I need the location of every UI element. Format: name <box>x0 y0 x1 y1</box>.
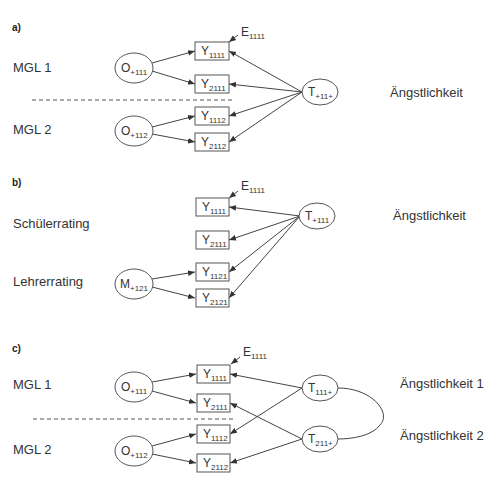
path-diagram: a) MGL 1 MGL 2 Ängstlichkeit E1111 Y1111… <box>0 0 491 482</box>
method-factor-ellipse: O+111 <box>115 372 153 402</box>
trait-label: Ängstlichkeit <box>393 208 466 223</box>
indicator-box: Y1111 <box>196 198 229 216</box>
indicator-box: Y2112 <box>197 454 230 472</box>
indicator-box: Y2112 <box>195 133 229 151</box>
indicator-box: Y2121 <box>196 289 229 307</box>
method-factor-ellipse: O+112 <box>115 436 153 466</box>
method-factor-ellipse: M+121 <box>115 269 153 299</box>
method-factor-ellipse: O+111 <box>115 53 153 83</box>
group-label-schuelerrating: Schülerrating <box>13 216 90 231</box>
error-label: E1111 <box>241 25 266 41</box>
trait-factor-ellipse: T111+ <box>302 375 338 401</box>
panel-label-a: a) <box>12 22 21 33</box>
indicator-box: Y2111 <box>196 231 229 249</box>
panel-a: a) MGL 1 MGL 2 Ängstlichkeit E1111 Y1111… <box>12 22 463 151</box>
panel-b: b) Schülerrating Lehrerrating Ängstlichk… <box>12 177 466 307</box>
trait-label-2: Ängstlichkeit 2 <box>400 428 484 443</box>
panel-label-b: b) <box>12 177 21 188</box>
indicator-box: Y2111 <box>197 394 230 412</box>
panel-label-c: c) <box>12 343 21 354</box>
indicator-box: Y1111 <box>195 42 229 60</box>
group-label-mgl1: MGL 1 <box>13 377 52 392</box>
trait-label-1: Ängstlichkeit 1 <box>400 376 484 391</box>
indicator-box: Y1111 <box>197 365 230 383</box>
trait-factor-ellipse: T211+ <box>302 426 338 452</box>
indicator-box: Y1112 <box>197 425 230 443</box>
indicator-box: Y1121 <box>196 263 229 281</box>
trait-correlation-curve <box>338 388 384 439</box>
group-label-mgl2: MGL 2 <box>13 122 52 137</box>
panel-c: c) MGL 1 MGL 2 Ängstlichkeit 1 Ängstlich… <box>12 343 484 472</box>
indicator-box: Y2111 <box>195 75 229 93</box>
indicator-box: Y1112 <box>195 107 229 125</box>
method-factor-ellipse: O+112 <box>115 116 153 146</box>
group-label-mgl1: MGL 1 <box>13 60 52 75</box>
error-label: E1111 <box>241 179 266 195</box>
error-label: E1111 <box>243 345 268 361</box>
trait-label: Ängstlichkeit <box>390 85 463 100</box>
group-label-lehrerrating: Lehrerrating <box>13 274 83 289</box>
trait-factor-ellipse: T+11+ <box>302 79 338 105</box>
trait-factor-ellipse: T+111 <box>299 203 335 229</box>
group-label-mgl2: MGL 2 <box>13 442 52 457</box>
